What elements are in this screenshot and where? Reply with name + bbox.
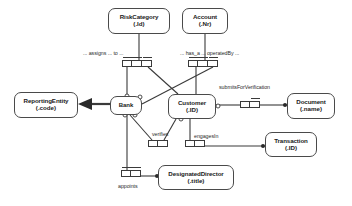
orm-diagram-canvas: RiskCategory (.Id) Account (.Nr) Reporti…	[0, 0, 352, 206]
entity-riskcategory[interactable]: RiskCategory (.Id)	[108, 8, 170, 34]
predicate-label-assigns-to: ... assigns ... to ...	[83, 50, 123, 56]
entity-bank[interactable]: Bank	[110, 96, 142, 115]
rolebox-verifies[interactable]	[148, 140, 168, 147]
role-cell[interactable]	[198, 60, 208, 67]
role-cell[interactable]	[142, 60, 152, 67]
predicate-label-submits-for-verification: submitsForVerification	[219, 84, 270, 90]
role-cell[interactable]	[188, 60, 198, 67]
role-cell[interactable]	[208, 60, 218, 67]
entity-account[interactable]: Account (.Nr)	[182, 8, 228, 34]
entity-transaction[interactable]: Transaction (.ID)	[265, 132, 317, 157]
entity-reference-mode: (.ID)	[285, 145, 297, 152]
rolebox-submits-for-verification[interactable]	[240, 101, 260, 108]
role-cell[interactable]	[250, 101, 260, 108]
role-cell[interactable]	[148, 140, 158, 147]
role-cell[interactable]	[132, 60, 142, 67]
uniqueness-bar	[143, 57, 152, 58]
entity-reference-mode: (.title)	[188, 178, 205, 185]
entity-document[interactable]: Document (.name)	[287, 93, 335, 119]
entity-reference-mode: (.name)	[300, 106, 322, 113]
entity-reference-mode: (.Id)	[133, 21, 144, 28]
role-cell[interactable]	[158, 140, 168, 147]
entity-reference-mode: (.ID)	[186, 107, 198, 114]
line-bank-to-verifies	[130, 115, 152, 140]
rolebox-appoints[interactable]	[121, 170, 141, 177]
rolebox-has-a-operated-by[interactable]	[188, 60, 218, 67]
role-cell[interactable]	[195, 140, 205, 147]
role-cell[interactable]	[185, 140, 195, 147]
uniqueness-bar	[122, 167, 141, 168]
uniqueness-bar	[251, 98, 260, 99]
line-assigns-to-customer	[148, 67, 178, 94]
role-cell[interactable]	[131, 170, 141, 177]
uniqueness-bar	[189, 57, 208, 58]
rolebox-engages-in[interactable]	[185, 140, 205, 147]
predicate-label-engages-in: engagesIn	[194, 133, 218, 139]
predicate-label-has-a-operated-by: ... has_a ... operatedBy ...	[180, 50, 239, 56]
rolebox-assigns-to[interactable]	[122, 60, 152, 67]
entity-reference-mode: (.code)	[36, 105, 56, 112]
entity-reference-mode: (.Nr)	[199, 21, 212, 28]
entity-reportingentity[interactable]: ReportingEntity (.code)	[14, 92, 78, 118]
entity-designateddirector[interactable]: DesignatedDirector (.title)	[158, 165, 234, 190]
subtype-arrowhead-icon	[78, 98, 92, 110]
role-cell[interactable]	[240, 101, 250, 108]
entity-name: Bank	[119, 102, 133, 109]
entity-customer[interactable]: Customer (.ID)	[168, 94, 216, 119]
uniqueness-bar	[123, 57, 142, 58]
predicate-label-appoints: appoints	[118, 183, 138, 189]
uniqueness-bar	[209, 57, 218, 58]
role-cell[interactable]	[122, 60, 132, 67]
predicate-label-verifies: verifies	[152, 131, 168, 137]
role-cell[interactable]	[121, 170, 131, 177]
